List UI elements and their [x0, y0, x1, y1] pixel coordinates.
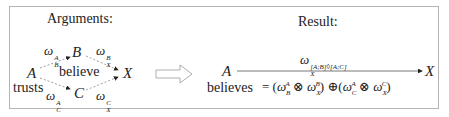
- result-target-node: X: [425, 64, 434, 79]
- result-formula: = (ωBA ⊗ ωXB) ⊕(ωCA ⊗ ωXC): [262, 80, 391, 97]
- result-edge-label: ω[A;B]◊[A;C]X: [300, 53, 347, 78]
- edge-label-ac: ωAC: [46, 89, 61, 114]
- edge-label-cx: ωCX: [96, 89, 111, 114]
- result-source-node: A: [222, 64, 231, 79]
- result-title: Result:: [298, 15, 338, 29]
- node-x: X: [123, 66, 132, 81]
- believes-label: believes: [207, 81, 253, 95]
- node-c: C: [74, 86, 84, 101]
- believe-label: believe: [59, 65, 99, 79]
- node-b: B: [72, 45, 81, 60]
- arguments-title: Arguments:: [47, 12, 113, 26]
- trusts-label: trusts: [13, 81, 43, 95]
- node-a: A: [27, 66, 36, 81]
- edge-label-bx: ωBX: [96, 44, 110, 69]
- implies-arrow-icon: [156, 65, 192, 83]
- edge-label-ab: ωAB: [44, 44, 58, 69]
